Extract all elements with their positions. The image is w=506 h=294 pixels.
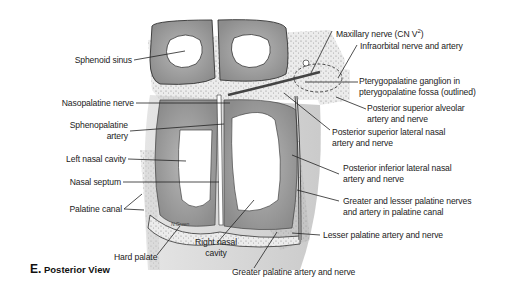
right-nasal-cavity	[224, 100, 297, 230]
label-post-sup-lateral-line2: artery and nerve	[332, 138, 393, 148]
label-right-nasal-cavity-line2: cavity	[186, 248, 246, 258]
label-post-sup-lateral-line1: Posterior superior lateral nasal	[332, 127, 445, 137]
label-pterygopalatine-line1: Pterygopalatine ganglion in	[359, 76, 460, 86]
label-sphenoid-sinus: Sphenoid sinus	[40, 55, 132, 65]
left-nasal-cavity	[155, 100, 218, 226]
label-greater-lesser-line2: and artery in palatine canal	[343, 207, 443, 217]
label-hard-palate: Hard palate	[114, 252, 157, 262]
artist-signature: N.Green	[171, 219, 189, 229]
label-maxillary-nerve: Maxillary nerve (CN V2)	[336, 26, 423, 39]
label-left-nasal-cavity: Left nasal cavity	[30, 154, 126, 164]
label-greater-palatine: Greater palatine artery and nerve	[232, 267, 355, 277]
caption-letter: E.	[30, 262, 41, 276]
caption-text: Posterior View	[44, 264, 110, 275]
label-pterygopalatine-line2: pterygopalatine fossa (outlined)	[359, 87, 476, 97]
label-nasal-septum: Nasal septum	[30, 177, 121, 187]
sphenoid-sinus-left	[150, 20, 215, 84]
anatomy-figure: Sphenoid sinus Nasopalatine nerve Spheno…	[0, 0, 506, 294]
sphenoid-sinus-right	[218, 20, 288, 81]
label-post-inf-lateral-line1: Posterior inferior lateral nasal	[343, 163, 452, 173]
label-nasopalatine-nerve: Nasopalatine nerve	[30, 98, 134, 108]
label-post-sup-alveolar-line2: artery and nerve	[367, 114, 428, 124]
label-post-inf-lateral-line2: artery and nerve	[343, 174, 404, 184]
label-sphenopalatine-artery-line2: artery	[50, 131, 128, 141]
label-right-nasal-cavity-line1: Right nasal	[186, 237, 246, 247]
figure-caption: E. Posterior View	[30, 262, 110, 276]
label-infraorbital: Infraorbital nerve and artery	[360, 41, 463, 51]
label-sphenopalatine-artery-line1: Sphenopalatine	[50, 120, 128, 130]
label-post-sup-alveolar-line1: Posterior superior alveolar	[367, 103, 465, 113]
label-palatine-canal: Palatine canal	[30, 204, 122, 214]
label-greater-lesser-line1: Greater and lesser palatine nerves	[343, 196, 471, 206]
label-lesser-palatine: Lesser palatine artery and nerve	[323, 230, 443, 240]
